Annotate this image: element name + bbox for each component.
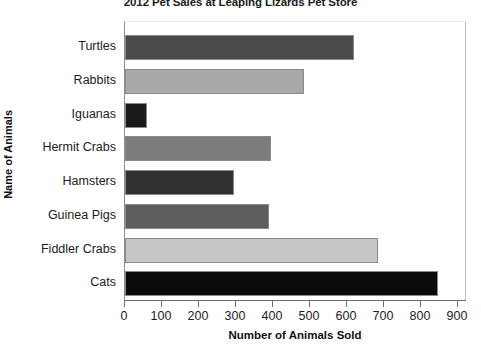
x-axis-tick-label: 100: [151, 309, 172, 323]
x-axis-tick: [272, 301, 273, 307]
x-axis-tick: [124, 301, 125, 307]
x-axis-tick: [457, 301, 458, 307]
chart-screenshot: 2012 Pet Sales at Leaping Lizards Pet St…: [0, 0, 481, 355]
plot-area: [124, 21, 466, 301]
x-axis-tick: [309, 301, 310, 307]
x-axis-tick: [346, 301, 347, 307]
bar: [125, 35, 354, 60]
bar-row: [125, 200, 465, 234]
x-axis-tick-label: 0: [121, 309, 128, 323]
x-axis-tick-label: 400: [262, 309, 283, 323]
bar: [125, 69, 304, 94]
x-axis-tick: [198, 301, 199, 307]
bar-row: [125, 166, 465, 200]
bar: [125, 238, 378, 263]
bar: [125, 271, 438, 296]
x-axis-tick: [383, 301, 384, 307]
bar-row: [125, 99, 465, 133]
y-axis-tick-label: Rabbits: [74, 64, 116, 98]
y-axis-tick-label: Fiddler Crabs: [41, 233, 116, 267]
y-axis-tick-labels: TurtlesRabbitsIguanasHermit CrabsHamster…: [18, 30, 120, 300]
y-axis-tick-label: Turtles: [78, 30, 116, 64]
y-axis-title: Name of Animals: [2, 110, 18, 199]
y-axis-tick-label: Hamsters: [63, 165, 116, 199]
x-axis-tick-label: 800: [410, 309, 431, 323]
x-axis-title: Number of Animals Sold: [124, 329, 466, 341]
x-axis-tick: [161, 301, 162, 307]
y-axis-tick-label: Iguanas: [72, 98, 116, 132]
x-axis-line: [124, 300, 466, 308]
y-axis-tick-label: Cats: [90, 266, 116, 300]
x-axis-tick-label: 200: [188, 309, 209, 323]
bar-row: [125, 31, 465, 65]
bar-row: [125, 234, 465, 268]
x-axis-tick-labels: 0100200300400500600700800900: [124, 309, 466, 325]
x-axis-tick-label: 500: [299, 309, 320, 323]
bar: [125, 136, 271, 161]
x-axis-tick-label: 900: [447, 309, 468, 323]
y-axis-tick-label: Hermit Crabs: [42, 131, 116, 165]
x-axis-tick-label: 600: [336, 309, 357, 323]
x-axis-tick: [420, 301, 421, 307]
bar-row: [125, 132, 465, 166]
y-axis-tick-label: Guinea Pigs: [48, 199, 116, 233]
chart-title: 2012 Pet Sales at Leaping Lizards Pet St…: [0, 0, 481, 8]
bar: [125, 204, 269, 229]
x-axis-tick-label: 300: [225, 309, 246, 323]
bar-row: [125, 267, 465, 301]
bar: [125, 170, 234, 195]
bar: [125, 103, 147, 128]
x-axis-tick-label: 700: [373, 309, 394, 323]
bar-row: [125, 65, 465, 99]
bar-series: [125, 31, 465, 301]
x-axis-tick: [235, 301, 236, 307]
